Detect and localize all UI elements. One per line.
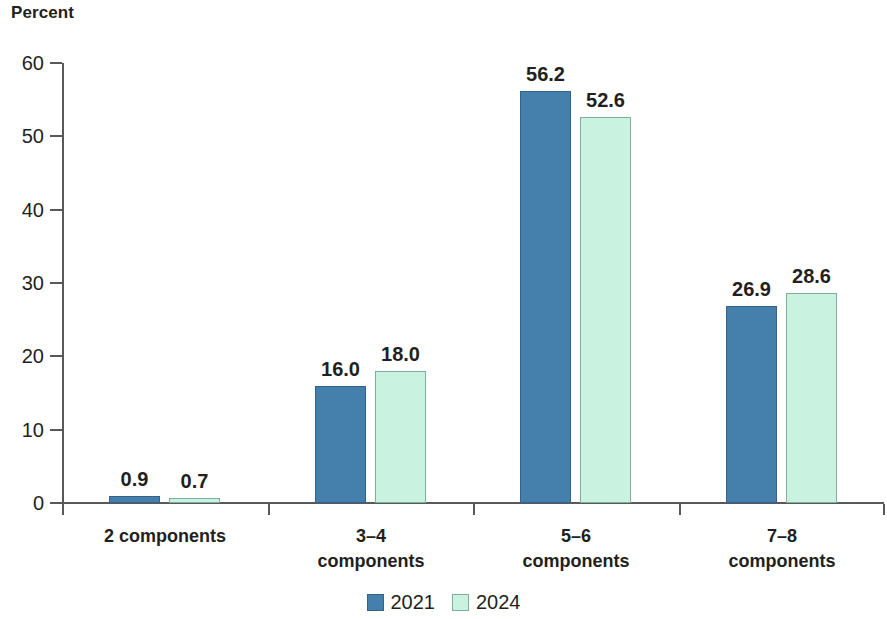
y-axis-tick-label: 50 xyxy=(22,126,44,146)
y-axis-tick xyxy=(50,355,62,357)
y-axis-tick-label: 10 xyxy=(22,420,44,440)
x-axis-category-label: 7–8 components xyxy=(679,524,885,574)
x-axis-category-label: 2 components xyxy=(62,524,268,549)
y-axis-tick-label: 40 xyxy=(22,200,44,220)
bar-2021-group-2 xyxy=(315,386,366,503)
y-axis-tick xyxy=(50,502,62,504)
bar-value-label: 52.6 xyxy=(568,90,643,110)
legend-item-2021[interactable]: 2021 xyxy=(367,592,436,612)
bar-value-label: 0.7 xyxy=(157,471,232,491)
y-axis-line xyxy=(62,63,64,504)
bar-chart-figure: Percent 0102030405060 0.90.716.018.056.2… xyxy=(0,0,887,619)
bar-2021-group-1 xyxy=(109,496,160,503)
x-axis-category-label: 3–4 components xyxy=(268,524,474,574)
legend-swatch-2024-icon xyxy=(452,594,469,611)
y-axis-tick-label: 60 xyxy=(22,53,44,73)
y-axis-tick xyxy=(50,62,62,64)
x-axis-tick xyxy=(473,504,475,515)
bar-2024-group-1 xyxy=(169,498,220,503)
bar-2024-group-4 xyxy=(786,293,837,503)
y-axis-tick-label: 0 xyxy=(33,493,44,513)
bar-2021-group-3 xyxy=(520,91,571,503)
legend-swatch-2021-icon xyxy=(367,594,384,611)
bar-value-label: 28.6 xyxy=(774,266,849,286)
bar-value-label: 56.2 xyxy=(508,64,583,84)
legend-item-2024[interactable]: 2024 xyxy=(452,592,521,612)
y-axis-tick xyxy=(50,135,62,137)
legend-label: 2024 xyxy=(476,592,521,612)
x-axis-category-label: 5–6 components xyxy=(473,524,679,574)
bar-2024-group-3 xyxy=(580,117,631,503)
y-axis-tick xyxy=(50,429,62,431)
bar-2024-group-2 xyxy=(375,371,426,503)
y-axis-tick-label: 30 xyxy=(22,273,44,293)
x-axis-tick xyxy=(679,504,681,515)
y-axis-title: Percent xyxy=(11,3,74,23)
bar-2021-group-4 xyxy=(726,306,777,503)
chart-legend: 20212024 xyxy=(0,592,887,612)
x-axis-tick xyxy=(883,504,885,515)
x-axis-tick xyxy=(268,504,270,515)
x-axis-tick xyxy=(62,504,64,515)
bar-value-label: 18.0 xyxy=(363,344,438,364)
y-axis-tick xyxy=(50,209,62,211)
legend-label: 2021 xyxy=(391,592,436,612)
y-axis-tick-label: 20 xyxy=(22,346,44,366)
y-axis-tick xyxy=(50,282,62,284)
